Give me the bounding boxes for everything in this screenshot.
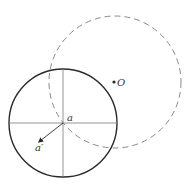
label-a: a: [67, 112, 73, 123]
diagram-canvas: a a′ O: [0, 0, 187, 186]
arrow-a-to-a-prime: [40, 123, 63, 141]
point-o-dot: [112, 80, 115, 83]
label-o: O: [117, 77, 125, 88]
label-a-prime: a′: [35, 142, 44, 153]
